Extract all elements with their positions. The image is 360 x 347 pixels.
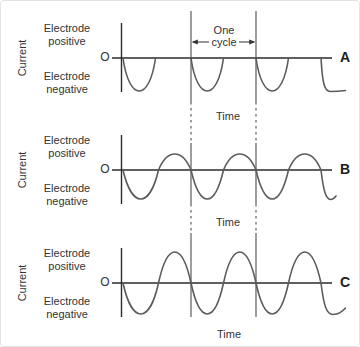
panel-letter-a: A <box>335 51 355 64</box>
electrode-positive-label: Electrode positive <box>22 22 112 48</box>
electrode-positive-line1: Electrode <box>22 134 112 147</box>
electrode-positive-line1: Electrode <box>22 247 112 260</box>
welding-current-waveform-figure: Current Electrode positive O Electrode n… <box>0 0 360 347</box>
electrode-negative-line2: negative <box>22 308 112 321</box>
one-cycle-label-line2: cycle <box>198 36 250 49</box>
panel-letter-c: C <box>335 276 355 289</box>
origin-label: O <box>97 276 113 289</box>
time-axis-label-c: Time <box>204 328 254 341</box>
electrode-negative-label: Electrode negative <box>22 182 112 208</box>
electrode-positive-line2: positive <box>22 147 112 160</box>
electrode-negative-line2: negative <box>22 83 112 96</box>
origin-label: O <box>97 51 113 64</box>
time-axis-label-a: Time <box>203 110 253 123</box>
electrode-negative-line1: Electrode <box>22 70 112 83</box>
one-cycle-label-text: cycle <box>209 36 238 48</box>
electrode-positive-line2: positive <box>22 35 112 48</box>
origin-label: O <box>97 163 113 176</box>
electrode-positive-label: Electrode positive <box>22 134 112 160</box>
panel-b: Current Electrode positive O Electrode n… <box>1 113 360 225</box>
electrode-negative-line1: Electrode <box>22 295 112 308</box>
time-axis-label-b: Time <box>203 216 253 229</box>
electrode-negative-label: Electrode negative <box>22 70 112 96</box>
electrode-positive-line2: positive <box>22 260 112 273</box>
electrode-negative-line1: Electrode <box>22 182 112 195</box>
panel-a: Current Electrode positive O Electrode n… <box>1 1 360 113</box>
panel-letter-b: B <box>335 163 355 176</box>
electrode-negative-line2: negative <box>22 195 112 208</box>
electrode-positive-label: Electrode positive <box>22 247 112 273</box>
electrode-negative-label: Electrode negative <box>22 295 112 321</box>
electrode-positive-line1: Electrode <box>22 22 112 35</box>
panel-c: Current Electrode positive O Electrode n… <box>1 226 360 338</box>
